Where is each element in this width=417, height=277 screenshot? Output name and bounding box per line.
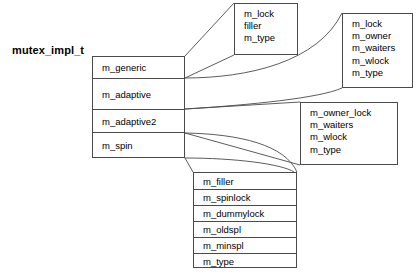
page-title: mutex_impl_t bbox=[12, 44, 84, 56]
spin-field-row: m_oldspl bbox=[194, 221, 296, 237]
struct-field: m_type bbox=[352, 67, 412, 79]
spin-field-label: m_type bbox=[203, 256, 234, 267]
spin-field-row: m_dummylock bbox=[194, 205, 296, 221]
generic-struct-box: m_lock filler m_type bbox=[234, 3, 298, 55]
union-member-label: m_spin bbox=[102, 140, 133, 151]
struct-field: m_wlock bbox=[310, 131, 397, 143]
connector-spin-bottom bbox=[185, 158, 294, 172]
mutex-union-box: m_generic m_adaptive m_adaptive2 m_spin bbox=[92, 56, 185, 158]
struct-field: m_owner bbox=[352, 30, 412, 42]
struct-field: m_owner_lock bbox=[310, 107, 397, 119]
connector-spin-left bbox=[185, 158, 193, 172]
struct-field: m_lock bbox=[352, 18, 412, 30]
diagram-canvas: mutex_impl_t m_generic m_adaptive m_adap… bbox=[0, 0, 417, 277]
union-member-label: m_generic bbox=[102, 62, 146, 73]
spin-field-label: m_filler bbox=[203, 176, 234, 187]
spin-field-row: m_type bbox=[194, 253, 296, 269]
union-member-label: m_adaptive bbox=[102, 89, 151, 100]
struct-field: m_waiters bbox=[310, 119, 397, 131]
connector-adaptive2-bottom bbox=[185, 133, 300, 165]
spin-field-label: m_oldspl bbox=[203, 224, 241, 235]
struct-field: filler bbox=[244, 20, 297, 32]
adaptive2-struct-box: m_owner_lock m_waiters m_wlock m_type bbox=[300, 102, 398, 165]
connector-spin-top bbox=[185, 133, 297, 172]
union-member-row[interactable]: m_adaptive2 bbox=[93, 109, 184, 132]
spin-field-label: m_dummylock bbox=[203, 208, 264, 219]
connector-generic-bottom bbox=[185, 55, 234, 78]
connector-adaptive2-top bbox=[185, 102, 300, 109]
union-member-row[interactable]: m_adaptive bbox=[93, 78, 184, 109]
spin-field-row: m_filler bbox=[194, 173, 296, 189]
spin-field-label: m_spinlock bbox=[203, 192, 251, 203]
spin-field-row: m_spinlock bbox=[194, 189, 296, 205]
adaptive-struct-box: m_lock m_owner m_waiters m_wlock m_type bbox=[342, 13, 413, 88]
spin-field-label: m_minspl bbox=[203, 240, 244, 251]
union-member-row[interactable]: m_spin bbox=[93, 132, 184, 157]
spin-field-row: m_minspl bbox=[194, 237, 296, 253]
struct-field: m_type bbox=[244, 32, 297, 44]
struct-field: m_waiters bbox=[352, 42, 412, 54]
union-member-row[interactable]: m_generic bbox=[93, 57, 184, 78]
struct-field: m_lock bbox=[244, 8, 297, 20]
spin-struct-box: m_filler m_spinlock m_dummylock m_oldspl… bbox=[193, 172, 297, 268]
connector-generic-top bbox=[185, 3, 234, 56]
struct-field: m_wlock bbox=[352, 55, 412, 67]
union-member-label: m_adaptive2 bbox=[102, 116, 156, 127]
struct-field: m_type bbox=[310, 144, 397, 156]
